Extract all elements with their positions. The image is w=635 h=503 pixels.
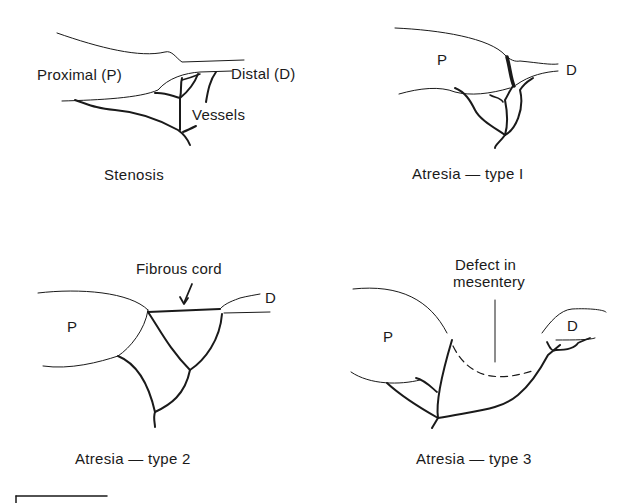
atresia-type-1-caption: Atresia — type I bbox=[412, 166, 524, 181]
stenosis-drawing bbox=[57, 33, 244, 145]
atresia-type-2-fibrous-cord-label: Fibrous cord bbox=[136, 261, 222, 276]
stenosis-distal-label: Distal (D) bbox=[231, 66, 296, 81]
atresia-type-3-distal-label: D bbox=[567, 318, 578, 333]
atresia-type-3-caption: Atresia — type 3 bbox=[416, 451, 532, 466]
atresia-type-2-drawing bbox=[38, 284, 270, 427]
atresia-type-1-proximal-label: P bbox=[437, 52, 447, 67]
stenosis-vessels-label: Vessels bbox=[192, 107, 245, 122]
atresia-type-3-drawing bbox=[351, 288, 606, 428]
atresia-type-3-proximal-label: P bbox=[383, 329, 393, 344]
atresia-type-1-drawing bbox=[395, 28, 558, 148]
atresia-type-3-defect-label-line2: mesentery bbox=[453, 274, 525, 289]
atresia-type-2-caption: Atresia — type 2 bbox=[75, 451, 191, 466]
atresia-type-2-distal-label: D bbox=[265, 290, 276, 305]
stenosis-caption: Stenosis bbox=[104, 167, 164, 182]
atresia-type-3-defect-label-line1: Defect in bbox=[455, 257, 516, 272]
stenosis-proximal-label: Proximal (P) bbox=[37, 67, 122, 82]
atresia-type-2-proximal-label: P bbox=[67, 319, 77, 334]
atresia-type-1-distal-label: D bbox=[566, 62, 577, 77]
